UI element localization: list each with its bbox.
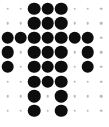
faint-small-dot bbox=[100, 36, 103, 39]
filled-large-dot bbox=[41, 31, 54, 44]
filled-large-dot bbox=[82, 61, 95, 74]
filled-large-dot bbox=[82, 31, 95, 44]
faint-small-dot bbox=[100, 51, 103, 54]
filled-large-dot bbox=[28, 46, 41, 59]
faint-small-dot bbox=[100, 80, 103, 83]
dot-matrix-canvas bbox=[0, 0, 109, 127]
faint-small-dot bbox=[20, 109, 23, 112]
faint-small-dot bbox=[20, 51, 23, 54]
faint-small-dot bbox=[100, 109, 103, 112]
filled-large-dot bbox=[55, 61, 68, 74]
faint-small-dot bbox=[73, 7, 76, 10]
filled-large-dot bbox=[55, 90, 68, 103]
faint-small-dot bbox=[87, 7, 90, 10]
faint-small-dot bbox=[46, 109, 49, 112]
filled-large-dot bbox=[55, 104, 68, 117]
faint-small-dot bbox=[20, 95, 23, 98]
faint-small-dot bbox=[100, 95, 103, 98]
filled-large-dot bbox=[28, 2, 41, 15]
faint-small-dot bbox=[100, 22, 103, 25]
filled-large-dot bbox=[55, 2, 68, 15]
filled-large-dot bbox=[41, 2, 54, 15]
filled-large-dot bbox=[55, 46, 68, 59]
faint-small-dot bbox=[73, 80, 76, 83]
faint-small-dot bbox=[6, 7, 9, 10]
filled-large-dot bbox=[28, 17, 41, 30]
filled-large-dot bbox=[41, 46, 54, 59]
faint-small-dot bbox=[20, 80, 23, 83]
faint-small-dot bbox=[46, 95, 49, 98]
filled-large-dot bbox=[28, 104, 41, 117]
filled-large-dot bbox=[28, 90, 41, 103]
filled-large-dot bbox=[41, 17, 54, 30]
faint-small-dot bbox=[6, 22, 9, 25]
faint-small-dot bbox=[87, 22, 90, 25]
filled-large-dot bbox=[55, 31, 68, 44]
faint-small-dot bbox=[87, 109, 90, 112]
faint-small-dot bbox=[73, 95, 76, 98]
faint-small-dot bbox=[73, 22, 76, 25]
faint-small-dot bbox=[73, 109, 76, 112]
faint-small-dot bbox=[20, 66, 23, 69]
filled-large-dot bbox=[41, 61, 54, 74]
faint-small-dot bbox=[6, 95, 9, 98]
filled-large-dot bbox=[28, 75, 41, 88]
filled-large-dot bbox=[55, 75, 68, 88]
faint-small-dot bbox=[100, 66, 103, 69]
faint-small-dot bbox=[100, 7, 103, 10]
faint-small-dot bbox=[6, 109, 9, 112]
faint-small-dot bbox=[73, 66, 76, 69]
faint-small-dot bbox=[87, 95, 90, 98]
faint-small-dot bbox=[73, 51, 76, 54]
filled-large-dot bbox=[28, 31, 41, 44]
filled-large-dot bbox=[41, 75, 54, 88]
faint-small-dot bbox=[6, 80, 9, 83]
faint-small-dot bbox=[87, 80, 90, 83]
filled-large-dot bbox=[1, 61, 14, 74]
filled-large-dot bbox=[15, 31, 28, 44]
faint-small-dot bbox=[20, 7, 23, 10]
filled-large-dot bbox=[82, 46, 95, 59]
filled-large-dot bbox=[68, 31, 81, 44]
filled-large-dot bbox=[1, 46, 14, 59]
filled-large-dot bbox=[28, 61, 41, 74]
filled-large-dot bbox=[55, 17, 68, 30]
faint-small-dot bbox=[20, 22, 23, 25]
filled-large-dot bbox=[1, 31, 14, 44]
